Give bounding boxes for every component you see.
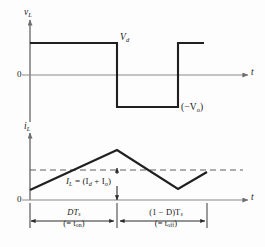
off-interval-label: (1 − D)Ts (= toff) xyxy=(129,208,203,229)
average-current-equation-label: IL = (Id + Io) xyxy=(66,177,111,187)
top-plot-x-axis-label: t xyxy=(251,68,254,78)
low-level-value-label: (−Vo) xyxy=(181,103,203,113)
on-interval-label: DTs (= ton) xyxy=(45,208,103,229)
top-plot-y-axis-label: vL xyxy=(24,8,32,18)
bottom-plot-axes xyxy=(22,133,248,200)
waveform-figure: vL 0 t Vd (−Vo) iL 0 t IL = (Id + Io) DT… xyxy=(0,0,265,247)
high-level-value-label: Vd xyxy=(120,33,129,43)
bottom-plot-y-axis-label: iL xyxy=(24,122,30,132)
bottom-plot-x-axis-label: t xyxy=(251,193,254,203)
bottom-plot-zero-label: 0 xyxy=(17,195,22,204)
top-plot-zero-label: 0 xyxy=(17,70,22,79)
